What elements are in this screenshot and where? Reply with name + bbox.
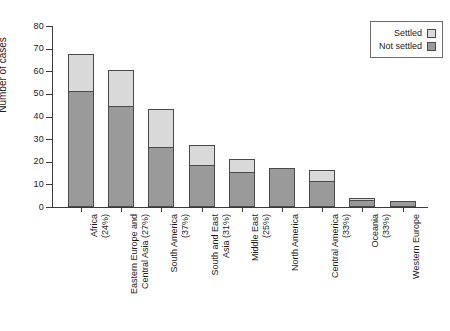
x-tick: [282, 207, 283, 212]
legend-item-settled: Settled: [379, 27, 436, 39]
bar-segment-settled: [349, 198, 375, 201]
x-tick-label: South America (37%): [169, 214, 190, 331]
x-tick: [81, 207, 82, 212]
bar-column: [68, 55, 94, 207]
legend-label-not-settled: Not settled: [379, 42, 422, 51]
x-tick-label: Middle East (25%): [250, 214, 271, 331]
bar-segment-settled: [309, 170, 335, 182]
legend-swatch-not-settled: [427, 42, 436, 51]
bar-segment-not-settled: [148, 147, 174, 207]
bar-segment-not-settled: [189, 165, 215, 207]
x-axis-line: [52, 207, 428, 208]
y-tick-label: 10: [0, 180, 44, 189]
bar-column: [148, 110, 174, 207]
x-tick: [242, 207, 243, 212]
bar-segment-settled: [108, 70, 134, 107]
x-tick: [403, 207, 404, 212]
y-tick-label: 30: [0, 135, 44, 144]
bar-segment-settled: [68, 54, 94, 91]
y-tick-label: 50: [0, 89, 44, 98]
y-tick-label: 80: [0, 22, 44, 31]
bar-segment-not-settled: [269, 168, 295, 207]
bar-column: [189, 146, 215, 207]
bar-column: [229, 160, 255, 208]
x-tick: [161, 207, 162, 212]
bar-segment-not-settled: [108, 106, 134, 207]
y-tick-label: 60: [0, 67, 44, 76]
legend-label-settled: Settled: [394, 29, 422, 38]
x-tick: [362, 207, 363, 212]
x-tick-label: Eastern Europe and Central Asia (27%): [129, 214, 150, 331]
x-tick-label: Western Europe: [411, 214, 422, 331]
legend-item-not-settled: Not settled: [379, 40, 436, 52]
bar-segment-not-settled: [309, 181, 335, 207]
y-tick-label: 70: [0, 44, 44, 53]
x-tick: [322, 207, 323, 212]
x-tick: [202, 207, 203, 212]
x-tick-label: Oceania (33%): [370, 214, 391, 331]
stacked-bar-chart: Number of cases 01020304050607080 Africa…: [0, 0, 450, 331]
bar-segment-settled: [229, 159, 255, 174]
bar-segment-not-settled: [68, 91, 94, 207]
bar-segment-not-settled: [229, 172, 255, 207]
bar-segment-settled: [148, 109, 174, 148]
legend-swatch-settled: [427, 29, 436, 38]
bar-segment-settled: [189, 145, 215, 166]
y-tick-label: 20: [0, 157, 44, 166]
bar-column: [309, 171, 335, 207]
bar-column: [349, 199, 375, 207]
x-tick-label: Central America (33%): [330, 214, 351, 331]
y-tick-label: 40: [0, 112, 44, 121]
bar-column: [108, 71, 134, 207]
x-tick: [121, 207, 122, 212]
bar-column: [269, 169, 295, 207]
y-tick: [46, 207, 52, 208]
x-tick-label: Africa (24%): [89, 214, 110, 331]
y-tick-label: 0: [0, 203, 44, 212]
x-tick-label: South and East Asia (31%): [210, 214, 231, 331]
legend: Settled Not settled: [370, 21, 443, 58]
x-tick-label: North America: [290, 214, 301, 331]
